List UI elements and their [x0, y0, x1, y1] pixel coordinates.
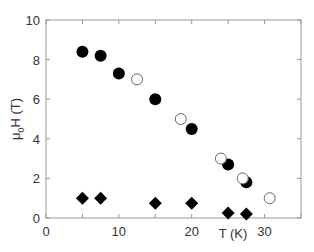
x-tick-label: 30	[257, 224, 271, 239]
filled-circle-marker	[95, 50, 107, 62]
x-tick-label: 10	[112, 224, 126, 239]
open-circle-marker	[237, 173, 248, 184]
open-circle-marker	[215, 153, 226, 164]
diamond-marker	[76, 192, 89, 205]
diamond-marker	[240, 208, 253, 221]
x-axis-label: T (K)	[219, 226, 248, 241]
y-tick-label: 10	[26, 13, 40, 28]
diamond-marker	[149, 197, 162, 210]
data-points	[76, 46, 275, 221]
open-circle-marker	[264, 193, 275, 204]
diamond-marker	[185, 197, 198, 210]
y-tick-label: 0	[33, 211, 40, 226]
filled-circle-marker	[76, 46, 88, 58]
y-tick-label: 2	[33, 171, 40, 186]
open-circle-marker	[175, 114, 186, 125]
y-tick-label: 8	[33, 53, 40, 68]
x-tick-label: 0	[42, 224, 49, 239]
filled-circle-marker	[149, 93, 161, 105]
axis-ticks: 01020300246810	[26, 13, 301, 239]
scatter-chart: 01020300246810 T (K) μ0H (T)	[0, 0, 314, 252]
y-tick-label: 4	[33, 132, 40, 147]
filled-circle-marker	[113, 67, 125, 79]
x-tick-label: 20	[184, 224, 198, 239]
diamond-marker	[94, 192, 107, 205]
filled-circle-marker	[186, 123, 198, 135]
y-axis-label: μ0H (T)	[8, 98, 26, 140]
y-tick-label: 6	[33, 92, 40, 107]
open-circle-marker	[132, 74, 143, 85]
